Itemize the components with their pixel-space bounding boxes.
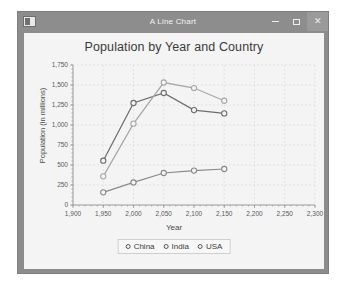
y-tick-label: 1,750 xyxy=(52,61,69,68)
y-tick-label: 500 xyxy=(57,161,68,168)
window-titlebar[interactable]: A Line Chart ✕ xyxy=(18,12,328,31)
legend-item-usa[interactable]: USA xyxy=(198,242,222,251)
legend-item-india[interactable]: India xyxy=(164,242,189,251)
chart-window: A Line Chart ✕ Population by Year and Co… xyxy=(17,11,329,274)
close-icon: ✕ xyxy=(314,17,322,26)
x-tick-label: 2,100 xyxy=(186,210,203,217)
window-icon xyxy=(23,16,36,27)
x-tick-label: 2,250 xyxy=(277,210,294,217)
chart-plot-container: Population (in millions) Year 0250500750… xyxy=(24,57,324,242)
minimize-button[interactable] xyxy=(265,12,286,31)
x-tick-label: 2,050 xyxy=(156,210,173,217)
legend-label: China xyxy=(134,242,155,251)
x-tick-label: 1,900 xyxy=(65,210,82,217)
y-tick-label: 1,250 xyxy=(52,101,69,108)
legend-marker-icon xyxy=(126,244,131,249)
legend-item-china[interactable]: China xyxy=(126,242,155,251)
legend-marker-icon xyxy=(198,244,203,249)
x-tick-label: 2,000 xyxy=(125,210,142,217)
y-tick-label: 1,000 xyxy=(52,121,69,128)
x-tick-label: 2,200 xyxy=(246,210,263,217)
chart-legend: China India USA xyxy=(118,239,231,254)
close-button[interactable]: ✕ xyxy=(307,12,328,31)
y-tick-label: 1,500 xyxy=(52,81,69,88)
y-tick-label: 250 xyxy=(57,181,68,188)
line-chart-plot: 02505007501,0001,2501,5001,7501,9001,950… xyxy=(24,57,324,242)
minimize-icon xyxy=(272,21,279,22)
chart-title: Population by Year and Country xyxy=(24,40,324,54)
x-tick-label: 2,150 xyxy=(216,210,233,217)
x-tick-label: 1,950 xyxy=(95,210,112,217)
y-tick-label: 0 xyxy=(64,201,68,208)
x-tick-label: 2,300 xyxy=(307,210,324,217)
maximize-button[interactable] xyxy=(286,12,307,31)
maximize-icon xyxy=(293,19,300,25)
legend-label: India xyxy=(172,242,189,251)
legend-label: USA xyxy=(206,242,222,251)
y-tick-label: 750 xyxy=(57,141,68,148)
legend-marker-icon xyxy=(164,244,169,249)
chart-client-area: Population by Year and Country Populatio… xyxy=(24,33,324,269)
window-controls: ✕ xyxy=(265,12,328,31)
